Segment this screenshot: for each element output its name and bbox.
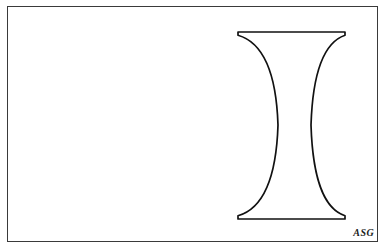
figure-frame bbox=[7, 6, 378, 242]
figure-canvas: ASG bbox=[0, 0, 386, 249]
signature-label: ASG bbox=[353, 228, 374, 238]
